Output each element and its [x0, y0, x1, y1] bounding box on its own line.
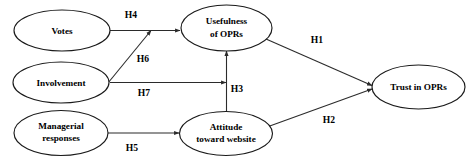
path-model-diagram: H4 H6 H7 H3 H5 H1 H2 — [0, 0, 474, 166]
path-label-h7: H7 — [138, 87, 150, 98]
node-managerial-responses-label-line1: Managerial — [38, 121, 84, 131]
path-h1: H1 — [266, 34, 372, 85]
node-attitude-toward-website: Attitude toward website — [180, 112, 273, 156]
node-managerial-responses-label-line2: responses — [42, 133, 80, 143]
path-h4: H4 — [110, 9, 180, 30]
path-h5: H5 — [108, 133, 179, 153]
node-votes-label: Votes — [51, 26, 73, 36]
path-h6: H6 — [108, 31, 151, 84]
node-usefulness-of-oprs: Usefulness of OPRs — [181, 5, 272, 51]
diagram-canvas: H4 H6 H7 H3 H5 H1 H2 — [0, 0, 474, 166]
node-involvement: Involvement — [13, 62, 109, 103]
path-h2: H2 — [267, 89, 372, 127]
path-h2-line — [267, 89, 372, 127]
node-trust-in-oprs: Trust in OPRs — [372, 65, 465, 109]
path-h7: H7 — [110, 83, 226, 99]
path-label-h5: H5 — [126, 142, 138, 153]
node-usefulness-of-oprs-label-line2: of OPRs — [210, 29, 243, 39]
node-managerial-responses: Managerial responses — [14, 111, 108, 156]
node-attitude-toward-website-label-line1: Attitude — [210, 122, 243, 132]
node-attitude-toward-website-label-line2: toward website — [196, 134, 255, 144]
path-h3: H3 — [227, 51, 244, 112]
path-label-h2: H2 — [323, 114, 335, 125]
path-label-h4: H4 — [125, 9, 137, 20]
node-involvement-label: Involvement — [37, 78, 87, 88]
node-votes: Votes — [14, 10, 110, 51]
path-label-h1: H1 — [311, 34, 323, 45]
path-label-h3: H3 — [231, 83, 243, 94]
node-usefulness-of-oprs-label-line1: Usefulness — [206, 16, 248, 26]
node-trust-in-oprs-label: Trust in OPRs — [390, 82, 447, 92]
path-h1-line — [266, 39, 372, 86]
path-label-h6: H6 — [137, 53, 149, 64]
